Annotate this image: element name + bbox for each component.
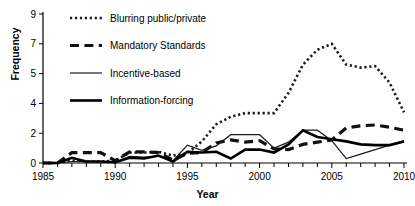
- legend-label-0: Blurring public/private: [110, 13, 207, 24]
- y-tick-label: 0: [30, 158, 36, 169]
- y-tick-label: 4: [30, 98, 36, 109]
- y-tick-label: 2: [30, 128, 36, 139]
- series-line-2: [43, 130, 404, 163]
- chart-legend: Blurring public/privateMandatory Standar…: [70, 13, 207, 107]
- chart-container: Frequency Year 024579 198519901995200020…: [0, 0, 415, 206]
- line-chart-plot: 024579 198519901995200020052010 Blurring…: [0, 0, 415, 206]
- series-line-0: [43, 44, 404, 163]
- legend-label-1: Mandatory Standards: [110, 40, 206, 51]
- x-tick-label: 1985: [32, 171, 55, 182]
- x-tick-label: 2010: [393, 171, 415, 182]
- x-axis-ticks: 198519901995200020052010: [32, 163, 415, 182]
- y-tick-label: 7: [30, 38, 36, 49]
- x-tick-label: 2000: [248, 171, 271, 182]
- y-axis-ticks: 024579: [30, 9, 43, 169]
- y-tick-label: 5: [30, 68, 36, 79]
- series-line-3: [43, 130, 404, 163]
- data-series-group: [43, 44, 404, 163]
- x-tick-label: 1990: [104, 171, 127, 182]
- x-tick-label: 1995: [176, 171, 199, 182]
- legend-label-3: Information-forcing: [110, 95, 193, 106]
- y-tick-label: 9: [30, 9, 36, 20]
- x-tick-label: 2005: [321, 171, 344, 182]
- legend-label-2: Incentive-based: [110, 68, 181, 79]
